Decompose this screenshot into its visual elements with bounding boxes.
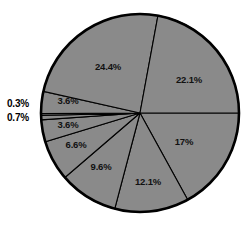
pie-slice-external-label: 0.7% xyxy=(7,113,29,123)
pie-slice[interactable] xyxy=(140,16,239,113)
pie-chart-svg xyxy=(0,0,248,227)
pie-slice-label: 17% xyxy=(175,137,193,147)
pie-slice-external-label: 0.3% xyxy=(7,99,29,109)
pie-slice-label: 9.6% xyxy=(91,162,112,172)
pie-slice-label: 3.6% xyxy=(58,120,79,130)
pie-slice-label: 24.4% xyxy=(95,62,121,72)
pie-slice-label: 3.6% xyxy=(58,96,79,106)
pie-slice-label: 6.6% xyxy=(66,140,87,150)
pie-slice-label: 12.1% xyxy=(135,177,161,187)
pie-slice-label: 22.1% xyxy=(176,75,202,85)
pie-chart-figure: 17%12.1%9.6%6.6%3.6%0.7%0.3%3.6%24.4%22.… xyxy=(0,0,248,227)
